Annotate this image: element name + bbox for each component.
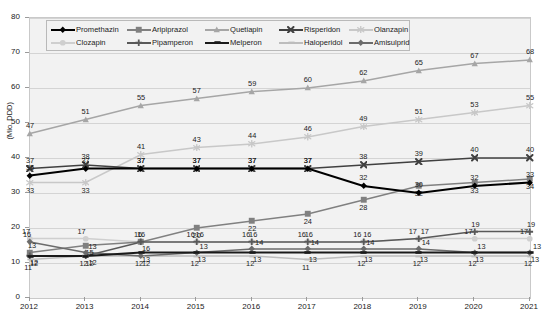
- legend-label: Melperon: [229, 38, 262, 47]
- data-point-marker: [193, 224, 201, 232]
- x-axis-tick-mark: [417, 297, 418, 301]
- data-point-marker: [471, 228, 479, 236]
- y-axis-tick-mark: [25, 157, 29, 158]
- data-point-label: 13: [533, 243, 541, 251]
- data-point-marker: [526, 56, 534, 64]
- data-point-marker: [26, 130, 34, 138]
- x-axis-tick-label: 2013: [65, 302, 105, 311]
- data-point-marker: [248, 140, 256, 148]
- legend-item-clozapin[interactable]: Clozapin: [51, 36, 106, 49]
- y-axis-tick-label: 0: [0, 293, 20, 301]
- data-point-marker: [471, 249, 478, 256]
- data-point-marker: [415, 158, 423, 166]
- series-line-haloperidol: [30, 256, 530, 260]
- series-line-quetiapin: [30, 60, 530, 134]
- data-point-marker: [304, 256, 311, 263]
- legend-label: Quetiapin: [229, 25, 263, 34]
- legend-label: Risperidon: [303, 25, 340, 34]
- legend-swatch-olanzapin-icon: [349, 24, 373, 36]
- legend-row: PromethazinAripiprazolQuetiapinRisperido…: [51, 23, 405, 36]
- legend-swatch-amisulprid-icon: [349, 37, 373, 49]
- legend-label: Clozapin: [75, 38, 106, 47]
- legend-item-risperidon[interactable]: Risperidon: [279, 23, 340, 36]
- x-axis-tick-label: 2018: [342, 302, 382, 311]
- data-point-marker: [193, 144, 201, 152]
- legend-swatch-clozapin-icon: [51, 37, 75, 49]
- y-axis-tick-mark: [25, 122, 29, 123]
- data-point-marker: [360, 182, 368, 190]
- data-point-marker: [360, 77, 368, 85]
- legend-item-haloperidol[interactable]: Haloperidol: [279, 36, 342, 49]
- data-point-marker: [415, 67, 423, 75]
- legend-label: Pipamperon: [151, 38, 193, 47]
- x-axis-tick-mark: [306, 297, 307, 301]
- data-point-marker: [137, 151, 145, 159]
- x-axis-tick-label: 2017: [287, 302, 327, 311]
- data-point-marker: [360, 123, 368, 131]
- legend-item-quetiapin[interactable]: Quetiapin: [205, 23, 263, 36]
- x-axis-tick-label: 2019: [398, 302, 438, 311]
- data-point-marker: [137, 102, 145, 110]
- data-point-marker: [304, 165, 312, 173]
- data-point-marker: [248, 217, 256, 225]
- x-axis-tick-mark: [84, 297, 85, 301]
- x-axis-tick-label: 2012: [9, 302, 49, 311]
- data-point-marker: [26, 172, 34, 180]
- x-axis-tick-mark: [195, 297, 196, 301]
- data-point-marker: [471, 60, 479, 68]
- y-axis-tick-mark: [25, 192, 29, 193]
- data-point-marker: [193, 165, 201, 173]
- legend-item-melperon[interactable]: Melperon: [205, 36, 262, 49]
- data-point-marker: [304, 210, 312, 218]
- data-point-marker: [526, 102, 534, 110]
- y-axis-tick-label: 70: [0, 48, 20, 56]
- x-axis-tick-mark: [140, 297, 141, 301]
- legend-item-promethazin[interactable]: Promethazin: [51, 23, 119, 36]
- legend-item-aripiprazol[interactable]: Aripiprazol: [127, 23, 188, 36]
- y-axis-tick-mark: [25, 227, 29, 228]
- x-axis-tick-label: 2020: [453, 302, 493, 311]
- data-point-marker: [360, 161, 368, 169]
- legend-swatch-melperon-icon: [205, 37, 229, 49]
- data-point-marker: [248, 88, 256, 96]
- series-line-olanzapin: [30, 106, 530, 183]
- legend-swatch-risperidon-icon: [279, 24, 303, 36]
- x-axis-tick-label: 2021: [509, 302, 546, 311]
- data-point-marker: [304, 133, 312, 141]
- legend-swatch-haloperidol-icon: [279, 37, 303, 49]
- y-axis-tick-label: 30: [0, 188, 20, 196]
- y-axis-tick-mark: [25, 87, 29, 88]
- y-axis-tick-mark: [25, 52, 29, 53]
- data-point-marker: [471, 182, 479, 190]
- data-point-marker: [82, 116, 90, 124]
- data-point-marker: [304, 249, 311, 256]
- data-point-marker: [82, 165, 90, 173]
- data-point-marker: [26, 179, 34, 187]
- data-point-marker: [415, 116, 423, 124]
- legend-item-pipamperon[interactable]: Pipamperon: [127, 36, 193, 49]
- x-axis-tick-mark: [362, 297, 363, 301]
- legend-label: Olanzapin: [373, 25, 408, 34]
- legend-row: ClozapinPipamperonMelperonHaloperidolAmi…: [51, 36, 405, 49]
- y-axis-tick-mark: [25, 262, 29, 263]
- data-point-marker: [471, 235, 479, 243]
- x-axis-tick-mark: [529, 297, 530, 301]
- legend-swatch-promethazin-icon: [51, 24, 75, 36]
- data-point-marker: [527, 249, 534, 256]
- legend-swatch-aripiprazol-icon: [127, 24, 151, 36]
- x-axis-tick-label: 2014: [120, 302, 160, 311]
- legend-item-olanzapin[interactable]: Olanzapin: [349, 23, 408, 36]
- x-axis-tick-mark: [251, 297, 252, 301]
- data-point-marker: [304, 84, 312, 92]
- y-axis-tick-label: 80: [0, 13, 20, 21]
- y-axis-tick-label: 20: [0, 223, 20, 231]
- data-point-marker: [526, 154, 534, 162]
- data-point-marker: [193, 238, 201, 246]
- series-lines: [30, 18, 530, 298]
- chart-legend: PromethazinAripiprazolQuetiapinRisperido…: [46, 20, 410, 51]
- x-axis-tick-mark: [473, 297, 474, 301]
- data-point-marker: [360, 249, 367, 256]
- data-point-marker: [415, 249, 422, 256]
- legend-item-amisulprid[interactable]: Amisulprid: [349, 36, 409, 49]
